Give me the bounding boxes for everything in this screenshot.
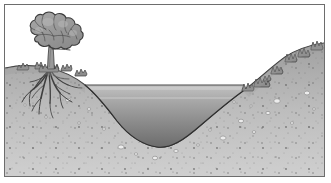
illustration-frame (4, 4, 325, 177)
illustration-canvas: Cross-section of a pond with tree on ban… (0, 0, 331, 183)
pond-cross-section-scene (5, 5, 324, 176)
